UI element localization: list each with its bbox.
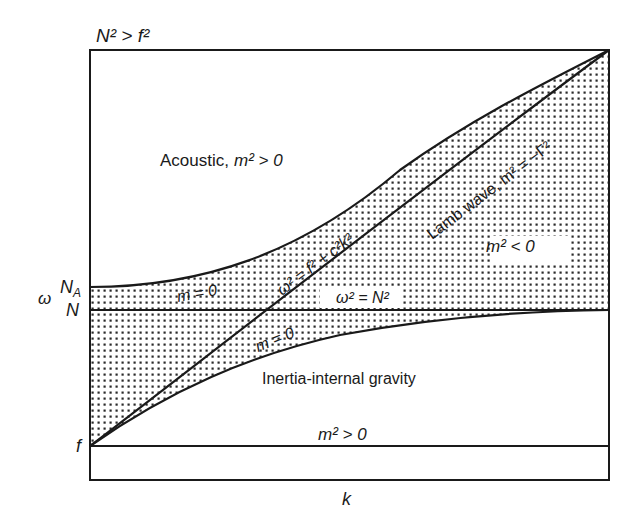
tick-label-na: NA <box>60 277 81 300</box>
dispersion-diagram: N² > f² ω NA N f k Acoustic,m² > 0 m² < … <box>0 0 639 522</box>
tick-label-n: N <box>66 300 80 320</box>
evanescent-region-label: m² < 0 <box>486 237 535 256</box>
lower-region-label: m² > 0 <box>318 425 367 444</box>
acoustic-region-label: Acoustic,m² > 0 <box>160 151 283 170</box>
buoyancy-curve-label: ω² = N² <box>336 289 390 306</box>
x-axis-label: k <box>342 489 352 509</box>
y-axis-label: ω <box>38 289 51 308</box>
tick-label-f: f <box>76 436 83 456</box>
inertia-gravity-region-label: Inertia-internal gravity <box>262 370 416 387</box>
condition-label: N² > f² <box>96 25 150 46</box>
